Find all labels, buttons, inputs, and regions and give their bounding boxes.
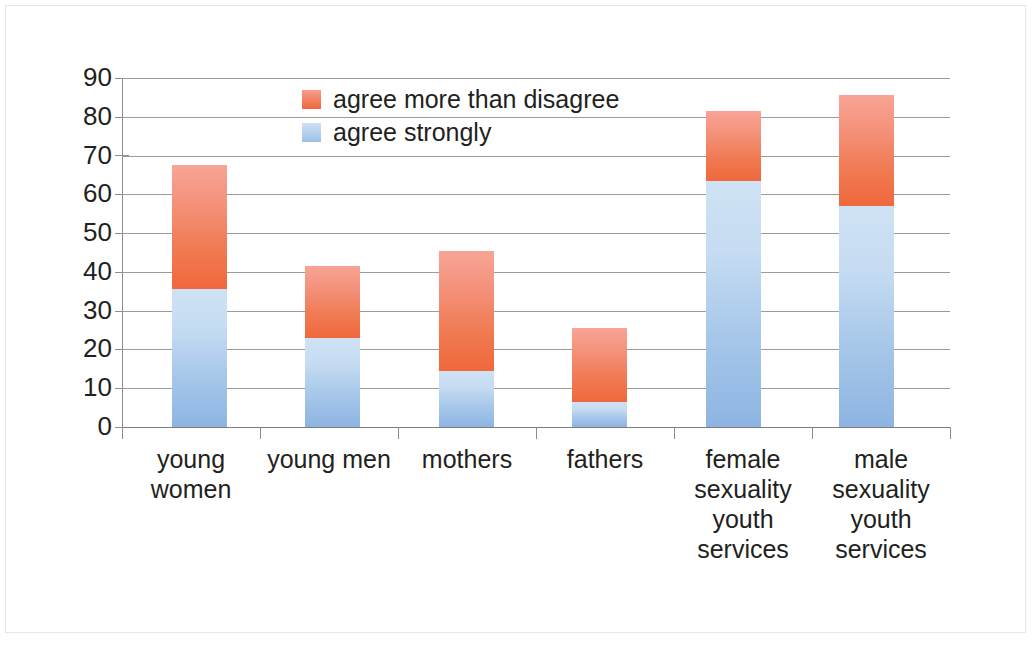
y-tick-label: 80	[66, 103, 112, 129]
bar-segment-agree-more-than-disagree	[305, 266, 360, 338]
bar-segment-agree-more-than-disagree	[572, 328, 627, 402]
bar-segment-agree-strongly	[439, 371, 494, 427]
bar-segment-agree-strongly	[305, 338, 360, 427]
x-tick-mark	[122, 427, 123, 439]
bar-segment-agree-more-than-disagree	[706, 111, 761, 181]
y-tick-label: 50	[66, 219, 112, 245]
legend-swatch-icon	[302, 123, 321, 142]
x-axis-label-male-sexuality-youth-services: male sexuality youth services	[812, 444, 950, 564]
gridline	[122, 194, 950, 195]
x-axis-label-line: male	[812, 444, 950, 474]
gridline	[122, 349, 950, 350]
x-axis-label-line: female	[674, 444, 812, 474]
x-axis-label-line: fathers	[536, 444, 674, 474]
x-tick-mark	[674, 427, 675, 439]
x-axis-label-line: young	[122, 444, 260, 474]
y-tick-label: 40	[66, 258, 112, 284]
y-tick-label: 70	[66, 142, 112, 168]
y-tick-label: 0	[66, 413, 112, 439]
x-tick-mark	[536, 427, 537, 439]
x-axis-label-line: services	[812, 534, 950, 564]
x-axis-label-line: mothers	[398, 444, 536, 474]
x-axis-label-line: young men	[260, 444, 398, 474]
x-axis-label-line: services	[674, 534, 812, 564]
y-tick-label: 90	[66, 64, 112, 90]
legend-item-label: agree strongly	[333, 118, 491, 147]
x-axis-label-line: women	[122, 474, 260, 504]
legend-item-agree-strongly[interactable]: agree strongly	[302, 116, 642, 149]
gridline	[122, 156, 950, 157]
bar-segment-agree-more-than-disagree	[839, 95, 894, 206]
x-tick-mark	[398, 427, 399, 439]
x-axis-label-line: youth	[674, 504, 812, 534]
x-axis-label-line: sexuality	[674, 474, 812, 504]
x-axis-label-mothers: mothers	[398, 444, 536, 474]
bar-segment-agree-strongly	[839, 206, 894, 427]
gridline	[122, 272, 950, 273]
bar-segment-agree-strongly	[572, 402, 627, 427]
x-axis-label-young-women: young women	[122, 444, 260, 504]
y-tick-label: 30	[66, 297, 112, 323]
gridline	[122, 388, 950, 389]
x-axis-label-line: sexuality	[812, 474, 950, 504]
x-tick-mark	[260, 427, 261, 439]
gridline	[122, 78, 950, 79]
stacked-bar-chart: 90 80 70 60 50 40 30 20 10 0	[0, 0, 1036, 645]
legend-item-label: agree more than disagree	[333, 85, 619, 114]
bar-segment-agree-strongly	[172, 289, 227, 427]
x-tick-mark	[812, 427, 813, 439]
x-axis-label-young-men: young men	[260, 444, 398, 474]
y-axis-labels: 90 80 70 60 50 40 30 20 10 0	[60, 0, 112, 645]
x-axis-label-fathers: fathers	[536, 444, 674, 474]
y-tick-label: 20	[66, 335, 112, 361]
x-axis-label-female-sexuality-youth-services: female sexuality youth services	[674, 444, 812, 564]
x-axis-label-line: youth	[812, 504, 950, 534]
bar-segment-agree-more-than-disagree	[439, 251, 494, 371]
gridline	[122, 233, 950, 234]
chart-legend: agree more than disagree agree strongly	[302, 83, 642, 149]
x-tick-mark	[950, 427, 951, 439]
gridline	[122, 311, 950, 312]
y-tick-label: 60	[66, 180, 112, 206]
bar-segment-agree-strongly	[706, 181, 761, 427]
chart-page: 90 80 70 60 50 40 30 20 10 0	[0, 0, 1036, 645]
y-tick-label: 10	[66, 374, 112, 400]
legend-swatch-icon	[302, 90, 321, 109]
legend-item-agree-more-than-disagree[interactable]: agree more than disagree	[302, 83, 642, 116]
bar-segment-agree-more-than-disagree	[172, 165, 227, 289]
